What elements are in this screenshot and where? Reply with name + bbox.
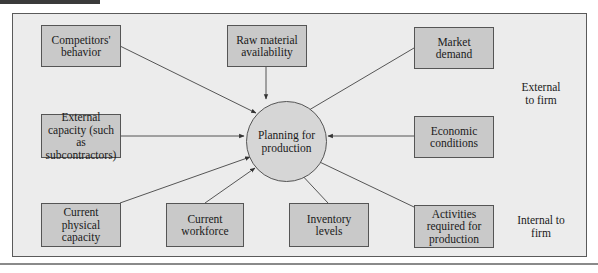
center-label: Planning for production (258, 129, 315, 154)
box-label: Raw material availability (236, 34, 298, 59)
box-economic-conditions: Economic conditions (414, 116, 494, 158)
box-label: External capacity (such as subcontractor… (42, 111, 120, 161)
bottom-rule (0, 263, 598, 265)
center-node-planning-for-production: Planning for production (246, 101, 327, 182)
arrow-activities (305, 155, 414, 207)
box-competitors-behavior: Competitors' behavior (41, 25, 121, 67)
box-label: Market demand (436, 36, 472, 61)
box-label: Inventory levels (307, 213, 352, 238)
internal-to-firm-label: Internal to firm (505, 214, 577, 239)
box-label: Activities required for production (427, 208, 482, 246)
box-label: Current physical capacity (62, 206, 100, 244)
box-current-workforce: Current workforce (166, 203, 244, 247)
box-raw-material-availability: Raw material availability (227, 25, 307, 67)
box-market-demand: Market demand (414, 27, 494, 69)
box-external-capacity: External capacity (such as subcontractor… (41, 114, 121, 158)
external-to-firm-label: External to firm (510, 81, 572, 106)
arrow-workforce (205, 168, 255, 203)
box-inventory-levels: Inventory levels (289, 203, 369, 247)
arrow-physical-capacity (120, 157, 250, 203)
box-current-physical-capacity: Current physical capacity (41, 203, 121, 247)
arrow-market-demand (304, 48, 414, 113)
box-label: Current workforce (181, 213, 228, 238)
box-label: Competitors' behavior (52, 34, 111, 59)
box-activities-required: Activities required for production (414, 205, 494, 248)
box-label: Economic conditions (430, 125, 478, 150)
